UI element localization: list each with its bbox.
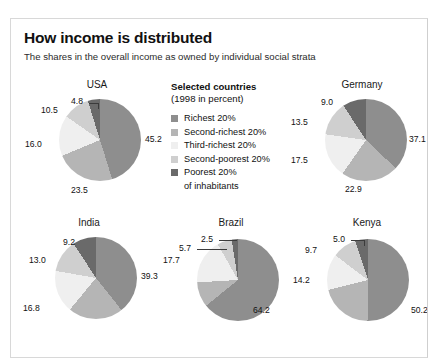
pie-value-usa-second-poorest: 10.5 (41, 105, 58, 115)
pie-value-india-poorest: 9.2 (63, 237, 75, 247)
pie-value-germany-second-poorest: 13.5 (291, 117, 308, 127)
pie-title-usa: USA (23, 79, 171, 90)
pie-leader-brazil-second-poorest (197, 249, 227, 250)
legend-items: Richest 20% Second-richest 20% Third-ric… (171, 112, 291, 192)
legend-item-poorest: Poorest 20% (171, 166, 291, 180)
legend-item-richest: Richest 20% (171, 112, 291, 126)
pie-leader-usa-poorest-drop (98, 103, 99, 109)
pie-value-usa-second-richest: 23.5 (71, 185, 88, 195)
pie-title-kenya: Kenya (297, 217, 428, 228)
legend-label-richest: Richest 20% (184, 112, 236, 126)
pie-chart-india (55, 237, 137, 319)
infographic-card: How income is distributed The shares in … (10, 18, 428, 358)
legend-swatch-second-richest (171, 129, 178, 136)
pie-chart-kenya (327, 239, 409, 321)
pie-value-brazil-richest: 64.2 (253, 305, 270, 315)
pie-leader-brazil-poorest (219, 240, 237, 241)
legend-label-third-richest: Third-richest 20% (184, 139, 256, 153)
pie-panel-india: India 39.3 16.8 13.0 9.2 (15, 217, 163, 337)
pie-value-india-second-poorest: 13.0 (29, 255, 46, 265)
legend-swatch-second-poorest (171, 156, 178, 163)
legend-label-poorest: Poorest 20% (184, 166, 237, 180)
pie-value-usa-poorest: 4.8 (71, 96, 83, 106)
pie-value-germany-poorest: 9.0 (321, 97, 333, 107)
legend-subheading: (1998 in percent) (171, 93, 291, 104)
pie-value-brazil-poorest: 2.5 (201, 234, 213, 244)
page-subtitle: The shares in the overall income as owne… (24, 51, 316, 62)
legend-heading: Selected countries (171, 81, 291, 92)
pie-value-kenya-third-richest: 14.2 (293, 275, 310, 285)
legend-label-second-richest: Second-richest 20% (184, 126, 266, 140)
pie-panel-germany: Germany 37.1 22.9 17.5 13.5 9.0 (297, 79, 427, 199)
legend-item-second-poorest: Second-poorest 20% (171, 153, 291, 167)
pie-leader-kenya-poorest-drop (364, 240, 365, 246)
legend-item-second-richest: Second-richest 20% (171, 126, 291, 140)
legend-swatch-poorest (171, 169, 178, 176)
pie-value-usa-third-richest: 16.0 (25, 139, 42, 149)
legend-swatch-richest (171, 115, 178, 122)
pie-value-germany-second-richest: 22.9 (345, 184, 362, 194)
pie-value-usa-richest: 45.2 (145, 134, 162, 144)
pie-value-kenya-poorest: 5.0 (333, 234, 345, 244)
legend-swatch-third-richest (171, 142, 178, 149)
pie-value-kenya-second-poorest: 9.7 (305, 245, 317, 255)
pie-value-brazil-second-richest: 17.7 (163, 255, 180, 265)
pie-value-germany-third-richest: 17.5 (291, 155, 308, 165)
pie-value-germany-richest: 37.1 (409, 134, 426, 144)
pie-value-brazil-second-poorest: 5.7 (179, 243, 191, 253)
pie-title-brazil: Brazil (157, 217, 305, 228)
pie-panel-kenya: Kenya 50.2 14.2 9.7 5.0 (297, 217, 428, 337)
legend-footnote: of inhabitants (184, 180, 291, 192)
pie-value-kenya-richest: 50.2 (411, 305, 428, 315)
page-title: How income is distributed (24, 29, 212, 47)
pie-panel-usa: USA 45.2 23.5 16.0 10.5 4.8 (23, 79, 171, 199)
pie-leader-kenya-poorest (351, 240, 365, 241)
pie-value-india-third-richest: 16.8 (23, 303, 40, 313)
pie-panel-brazil: Brazil 64.2 17.7 5.7 2.5 (157, 217, 305, 337)
legend: Selected countries (1998 in percent) Ric… (171, 81, 291, 192)
pie-chart-usa (59, 99, 141, 181)
pie-chart-germany (325, 99, 407, 181)
pie-value-india-richest: 39.3 (141, 271, 158, 281)
legend-label-second-poorest: Second-poorest 20% (184, 153, 270, 167)
legend-item-third-richest: Third-richest 20% (171, 139, 291, 153)
pie-title-india: India (15, 217, 163, 228)
pie-title-germany: Germany (297, 79, 427, 90)
